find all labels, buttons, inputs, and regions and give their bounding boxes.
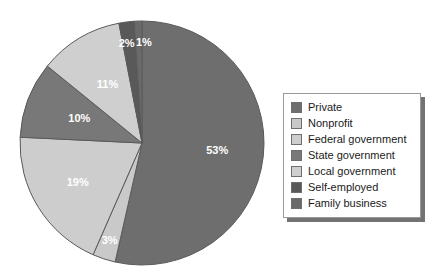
pie-slice-label: 10% [68, 112, 90, 124]
legend-item-label: Local government [308, 165, 395, 178]
legend-item-list: PrivateNonprofitFederal governmentState … [291, 100, 414, 211]
pie-chart-figure: 53%3%19%10%11%2%1% PrivateNonprofitFeder… [0, 0, 436, 280]
legend-swatch-icon [291, 134, 302, 145]
legend-swatch-icon [291, 102, 302, 113]
legend-swatch-icon [291, 198, 302, 209]
legend-swatch-icon [291, 150, 302, 161]
legend-item-label: Nonprofit [308, 117, 353, 130]
legend-item[interactable]: Self-employed [291, 180, 414, 195]
pie-slice-label: 2% [119, 37, 135, 49]
legend-item[interactable]: Family business [291, 196, 414, 211]
pie-slice-label: 1% [136, 36, 152, 48]
legend-item-label: Self-employed [308, 181, 378, 194]
legend-item[interactable]: Private [291, 100, 414, 115]
legend-item-label: State government [308, 149, 395, 162]
legend-item-label: Federal government [308, 133, 406, 146]
chart-legend: PrivateNonprofitFederal governmentState … [283, 93, 421, 218]
legend-swatch-icon [291, 166, 302, 177]
legend-swatch-icon [291, 118, 302, 129]
legend-item[interactable]: State government [291, 148, 414, 163]
legend-item[interactable]: Nonprofit [291, 116, 414, 131]
pie-slice-label: 3% [102, 234, 118, 246]
legend-item-label: Private [308, 101, 342, 114]
legend-item-label: Family business [308, 197, 387, 210]
legend-swatch-icon [291, 182, 302, 193]
legend-item[interactable]: Federal government [291, 132, 414, 147]
pie-slice-group [20, 21, 264, 265]
pie-slice-label: 19% [67, 176, 89, 188]
pie-slice-label: 11% [97, 78, 119, 90]
pie-slice-label: 53% [206, 144, 228, 156]
legend-item[interactable]: Local government [291, 164, 414, 179]
